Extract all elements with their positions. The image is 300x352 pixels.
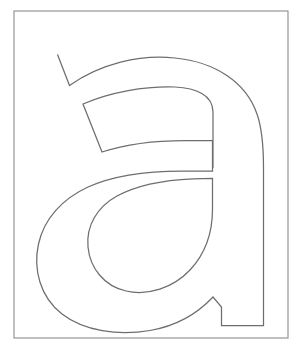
worksheet-page (0, 0, 300, 352)
letter-outline-canvas (0, 0, 300, 352)
